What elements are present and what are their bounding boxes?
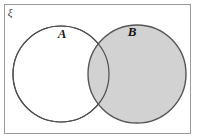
venn-diagram-figure: ξ A B xyxy=(0,0,198,138)
universal-set-symbol: ξ xyxy=(8,6,13,19)
set-a-label: A xyxy=(57,26,67,41)
venn-diagram-canvas: ξ A B xyxy=(0,0,198,138)
set-b-label: B xyxy=(127,24,137,39)
set-b-circle xyxy=(88,25,186,123)
